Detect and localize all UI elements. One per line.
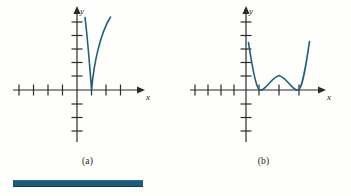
curve-quartic-b <box>249 42 310 91</box>
graph-panel-b: x y <box>176 0 351 150</box>
y-axis-label-b: y <box>248 6 253 16</box>
x-axis-label-b: x <box>326 92 331 102</box>
y-axis-label-a: y <box>79 6 84 16</box>
curve-parabola-a <box>85 17 111 90</box>
graph-a-svg: x y <box>0 0 175 150</box>
x-axis-arrowhead-b <box>318 86 326 93</box>
x-axis-arrowhead-a <box>137 86 145 93</box>
x-axis-label-a: x <box>145 92 150 102</box>
graph-b-svg: x y <box>176 0 351 150</box>
graph-panel-a: x y <box>0 0 175 150</box>
panel-caption-b: (b) <box>176 156 351 166</box>
figure-container: x y <box>0 0 351 196</box>
decorative-rule-bar <box>13 180 143 187</box>
panel-caption-a: (a) <box>0 156 175 166</box>
